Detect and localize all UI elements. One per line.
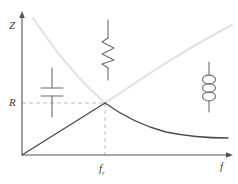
y-axis-tick-label-r: R (9, 97, 16, 108)
plot-canvas (0, 0, 238, 184)
resistor-symbol (102, 20, 114, 80)
impedance-curve (22, 103, 105, 155)
impedance-frequency-diagram: Z R fr f (0, 0, 238, 184)
x-axis-label: f (220, 161, 223, 172)
capacitor-symbol (41, 68, 63, 117)
fr-subscript: r (102, 169, 105, 177)
inductor-symbol (203, 62, 216, 112)
x-axis-tick-label-fr: fr (99, 163, 105, 177)
capacitive-reactance-curve (33, 18, 105, 103)
x-axis-arrowhead (226, 152, 233, 158)
y-axis-arrowhead (19, 11, 25, 18)
y-axis-label: Z (9, 20, 15, 31)
